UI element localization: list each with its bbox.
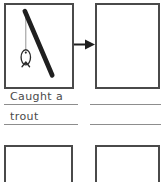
worksheet: Caught a trout <box>0 0 165 182</box>
fish-icon <box>21 50 30 67</box>
drawing-panel-3[interactable] <box>4 145 73 182</box>
caption-rule-left-1 <box>4 104 78 105</box>
arrow-right-icon <box>74 38 95 51</box>
caption-rule-right-2[interactable] <box>90 124 161 125</box>
drawing-panel-1[interactable] <box>4 3 74 89</box>
caption-rule-left-2 <box>4 124 78 125</box>
caption-left-line-1: Caught a <box>10 90 63 103</box>
caption-left-line-2: trout <box>10 110 39 123</box>
caption-rule-right-1[interactable] <box>90 104 161 105</box>
fishing-scene-drawing <box>6 5 72 87</box>
drawing-panel-2[interactable] <box>95 3 160 89</box>
drawing-panel-4[interactable] <box>95 145 160 182</box>
